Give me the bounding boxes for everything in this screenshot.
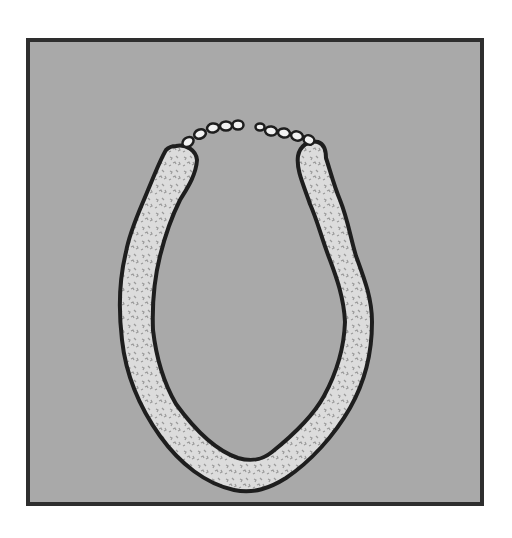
right-beads <box>256 124 316 147</box>
left-beads <box>181 121 244 150</box>
ring-body <box>120 142 372 492</box>
open-ring-illustration <box>0 0 512 538</box>
